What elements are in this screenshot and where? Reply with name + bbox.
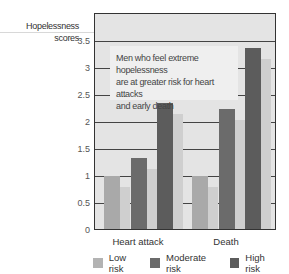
legend-label-low: Low risk <box>109 252 143 274</box>
annotation-box: Men who feel extreme hopelessness are at… <box>110 46 238 100</box>
gridline <box>95 41 275 42</box>
legend-label-moderate: Moderate risk <box>166 252 222 274</box>
y-tick-label: 1 <box>60 171 90 181</box>
legend-swatch-high <box>230 258 240 268</box>
annotation-line2: are at greater risk for heart attacks <box>116 76 232 100</box>
bar-heart-attack-low-risk <box>104 176 120 229</box>
legend-item-high-risk: High risk <box>230 252 281 274</box>
y-tick-label: 2 <box>60 117 90 127</box>
bar-heart-attack-high-risk <box>157 103 173 229</box>
bar-death-moderate-risk <box>219 109 235 229</box>
bar-death-high-risk <box>245 48 261 229</box>
legend: Low risk Moderate risk High risk <box>93 252 289 274</box>
y-tick-label: 0 <box>60 225 90 235</box>
y-axis-label-line1: Hopelessness <box>26 20 79 32</box>
legend-item-low-risk: Low risk <box>93 252 142 274</box>
y-tick-label: 3.5 <box>60 36 90 46</box>
legend-swatch-moderate <box>150 258 160 268</box>
legend-item-moderate-risk: Moderate risk <box>150 252 221 274</box>
category-label-death: Death <box>191 236 261 247</box>
bar-death-low-risk <box>192 176 208 229</box>
bar-heart-attack-moderate-risk <box>131 158 147 229</box>
legend-swatch-low <box>93 258 103 268</box>
y-label-divider <box>0 32 94 33</box>
y-tick-label: 0.5 <box>60 198 90 208</box>
category-label-heart-attack: Heart attack <box>103 236 173 247</box>
y-tick-label: 2.5 <box>60 90 90 100</box>
y-tick-label: 3 <box>60 63 90 73</box>
annotation-line1: Men who feel extreme hopelessness <box>116 52 232 76</box>
y-tick-label: 1.5 <box>60 144 90 154</box>
annotation-line3: and early death <box>116 100 232 112</box>
legend-label-high: High risk <box>245 252 281 274</box>
